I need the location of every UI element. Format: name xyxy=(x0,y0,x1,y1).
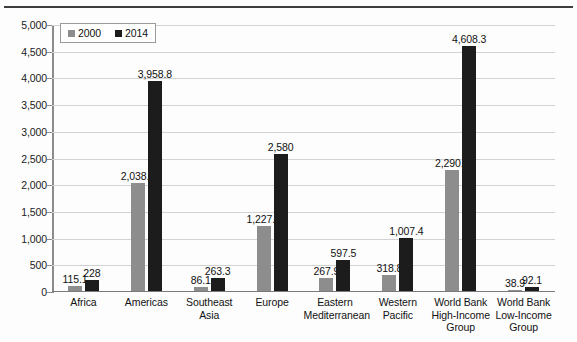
legend-swatch-2014-icon xyxy=(115,30,122,37)
bar-group: 115.1228 xyxy=(52,25,115,292)
y-axis-tick-label: 3,500 xyxy=(21,99,47,111)
legend-label-2014: 2014 xyxy=(125,27,148,39)
x-axis-label-line: Europe xyxy=(241,296,304,309)
bar-value-label: 263.3 xyxy=(192,265,244,277)
bar-2000 xyxy=(257,226,271,292)
x-axis-category-label: World BankLow-IncomeGroup xyxy=(492,296,555,334)
x-axis-category-label: WesternPacific xyxy=(366,296,429,321)
x-axis-category-label: Americas xyxy=(115,296,178,309)
x-axis-label-line: Eastern xyxy=(304,296,367,309)
y-axis-tick-label: 1,500 xyxy=(21,206,47,218)
bar-value-label: 1,007.4 xyxy=(380,225,432,237)
y-axis-tick-label: 5,000 xyxy=(21,19,47,31)
x-axis-baseline xyxy=(52,291,555,293)
x-axis-category-label: SoutheastAsia xyxy=(178,296,241,321)
bar-group: 2,290.44,608.3 xyxy=(429,25,492,292)
x-axis-label-line: Low-Income xyxy=(492,309,555,322)
bar-group: 2,038.23,958.8 xyxy=(115,25,178,292)
chart-legend: 2000 2014 xyxy=(60,23,156,43)
bar-2014 xyxy=(462,46,476,292)
y-axis-tick-label: 4,000 xyxy=(21,72,47,84)
plot-area: 115.12282,038.23,958.886.1263.31,227.32,… xyxy=(52,25,555,292)
bar-value-label: 597.5 xyxy=(317,247,369,259)
y-axis-tick-label: 4,500 xyxy=(21,46,47,58)
x-axis-label-line: Americas xyxy=(115,296,178,309)
legend-item-2014: 2014 xyxy=(115,27,148,39)
bar-value-label: 92.1 xyxy=(506,274,558,286)
bar-value-label: 4,608.3 xyxy=(443,33,495,45)
x-axis-label-line: Western xyxy=(366,296,429,309)
bar-group: 38.992.1 xyxy=(492,25,555,292)
bar-group: 318.81,007.4 xyxy=(366,25,429,292)
x-axis-label-line: World Bank xyxy=(492,296,555,309)
x-axis-label-line: Pacific xyxy=(366,309,429,322)
bar-2014 xyxy=(399,238,413,292)
x-axis-category-label: EasternMediterranean xyxy=(304,296,367,321)
chart-screenshot: 05001,0001,5002,0002,5003,0003,5004,0004… xyxy=(0,0,577,342)
bar-value-label: 3,958.8 xyxy=(129,68,181,80)
y-axis-tick-label: 1,000 xyxy=(21,233,47,245)
x-axis-label-line: High-Income xyxy=(429,309,492,322)
x-axis-label-line: Mediterranean xyxy=(304,309,367,322)
bar-2000 xyxy=(382,275,396,292)
x-axis-category-label: Africa xyxy=(52,296,115,309)
x-axis-label-line: World Bank xyxy=(429,296,492,309)
legend-swatch-2000-icon xyxy=(68,30,75,37)
bar-value-label: 2,580 xyxy=(255,141,307,153)
x-axis-category-label: World BankHigh-IncomeGroup xyxy=(429,296,492,334)
y-axis-tick-label: 2,000 xyxy=(21,179,47,191)
legend-item-2000: 2000 xyxy=(68,27,101,39)
bar-2014 xyxy=(336,260,350,292)
x-axis-label-line: Southeast xyxy=(178,296,241,309)
bar-group: 1,227.32,580 xyxy=(241,25,304,292)
bar-2000 xyxy=(445,170,459,292)
bar-2014 xyxy=(148,81,162,292)
y-axis: 05001,0001,5002,0002,5003,0003,5004,0004… xyxy=(0,0,47,342)
bar-2000 xyxy=(131,183,145,292)
y-axis-tick-label: 500 xyxy=(30,259,47,271)
legend-label-2000: 2000 xyxy=(78,27,101,39)
bar-group: 86.1263.3 xyxy=(178,25,241,292)
x-axis-label-line: Group xyxy=(492,321,555,334)
bar-group: 267.9597.5 xyxy=(304,25,367,292)
x-axis-label-line: Group xyxy=(429,321,492,334)
bar-value-label: 228 xyxy=(66,267,118,279)
x-axis-label-line: Africa xyxy=(52,296,115,309)
x-axis-category-label: Europe xyxy=(241,296,304,309)
y-axis-tick-label: 2,500 xyxy=(21,153,47,165)
bar-2014 xyxy=(274,154,288,292)
y-axis-tick-label: 3,000 xyxy=(21,126,47,138)
x-axis-label-line: Asia xyxy=(178,309,241,322)
top-divider-rule xyxy=(4,6,573,8)
